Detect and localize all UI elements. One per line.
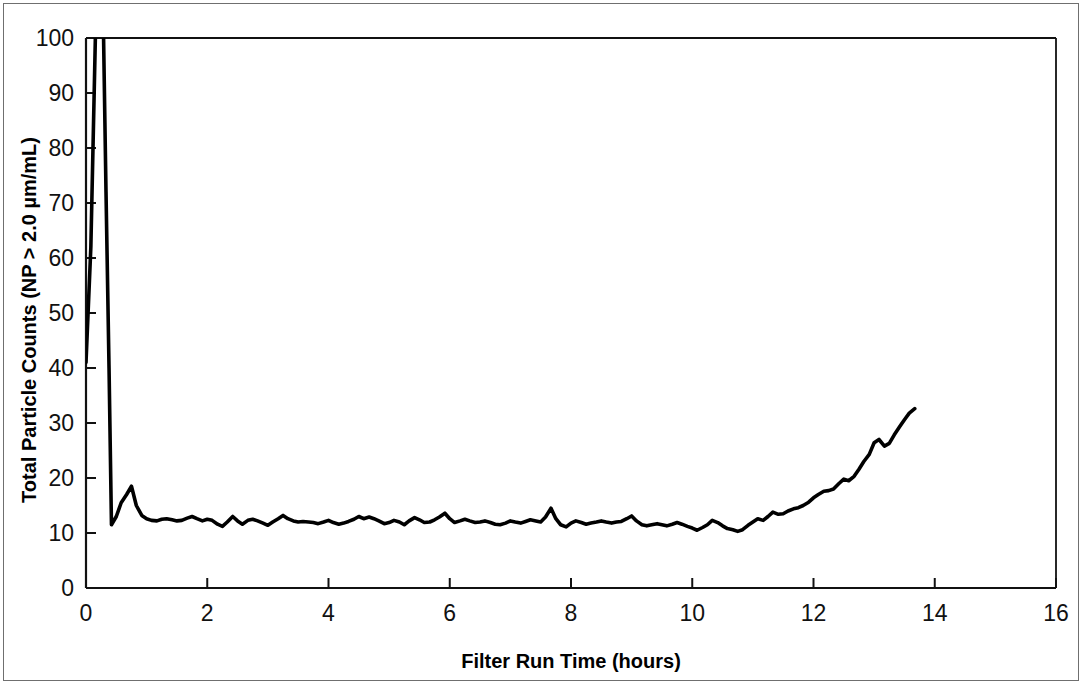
y-tick-label: 80: [48, 135, 74, 161]
plot-frame: [86, 38, 1056, 588]
x-tick-label: 12: [801, 600, 827, 626]
x-tick-label: 10: [679, 600, 705, 626]
y-tick-label: 90: [48, 80, 74, 106]
y-tick-label: 20: [48, 465, 74, 491]
y-axis-title: Total Particle Counts (NP > 2.0 µm/mL): [18, 137, 40, 503]
data-line: [86, 0, 915, 531]
x-tick-label: 14: [922, 600, 948, 626]
y-tick-label: 0: [61, 575, 74, 601]
data-series-group: [86, 0, 915, 531]
y-tick-label: 10: [48, 520, 74, 546]
y-tick-label: 60: [48, 245, 74, 271]
y-tick-label: 70: [48, 190, 74, 216]
y-tick-label: 100: [36, 25, 74, 51]
y-tick-labels: 0102030405060708090100: [36, 25, 74, 601]
x-tick-label: 6: [443, 600, 456, 626]
x-tick-label: 8: [565, 600, 578, 626]
y-tick-label: 50: [48, 300, 74, 326]
x-tick-label: 0: [80, 600, 93, 626]
chart-figure: 0102030405060708090100 0246810121416 Fil…: [0, 0, 1082, 684]
y-tick-label: 40: [48, 355, 74, 381]
x-axis-title: Filter Run Time (hours): [461, 650, 681, 672]
x-tick-label: 2: [201, 600, 214, 626]
x-tick-labels: 0246810121416: [80, 600, 1069, 626]
line-chart: 0102030405060708090100 0246810121416 Fil…: [0, 0, 1082, 684]
axis-ticks: [86, 93, 1056, 588]
y-tick-label: 30: [48, 410, 74, 436]
x-tick-label: 4: [322, 600, 335, 626]
x-tick-label: 16: [1043, 600, 1069, 626]
